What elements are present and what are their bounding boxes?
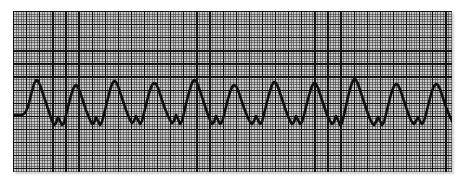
- ecg-waveform-trace: [13, 79, 452, 125]
- ecg-trace-layer: [13, 11, 452, 172]
- ecg-paper-strip: [13, 11, 452, 172]
- ecg-figure: [0, 0, 463, 185]
